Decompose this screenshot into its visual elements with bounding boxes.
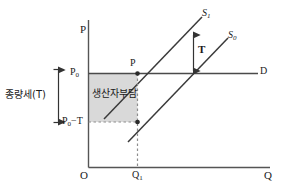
point-p-marker (135, 71, 140, 76)
y-tick-net-suffix: −T (71, 115, 83, 126)
supply-s1-label: S1 (202, 8, 211, 20)
x-tick-q1: Q1 (132, 170, 143, 182)
specific-tax-label: 종량세(T) (5, 90, 46, 100)
supply-s0-label: S0 (228, 30, 237, 42)
supply-curve-s0 (128, 38, 228, 142)
tax-gap-label: T (198, 44, 205, 55)
supply-s1-sub: 1 (207, 12, 211, 20)
x-axis-label: Q (264, 170, 272, 181)
tax-incidence-diagram: P Q O P0 P0−T Q1 P D S1 S0 T 종량세(T) 생산자부… (0, 0, 281, 191)
y-tick-p0: P0 (70, 67, 79, 79)
producer-burden-label: 생산자부담 (92, 89, 137, 99)
point-net-marker (135, 120, 140, 125)
y-tick-p0-minus-t: P0−T (62, 116, 83, 128)
y-axis-label: P (80, 24, 86, 35)
origin-label: O (80, 170, 88, 181)
x-tick-q1-sub: 1 (139, 174, 143, 182)
y-tick-p0-sub: 0 (76, 71, 80, 79)
demand-curve-label: D (260, 66, 267, 76)
point-p-label: P (130, 58, 136, 68)
supply-s0-sub: 0 (233, 34, 237, 42)
supply-curve-s1 (104, 17, 202, 119)
